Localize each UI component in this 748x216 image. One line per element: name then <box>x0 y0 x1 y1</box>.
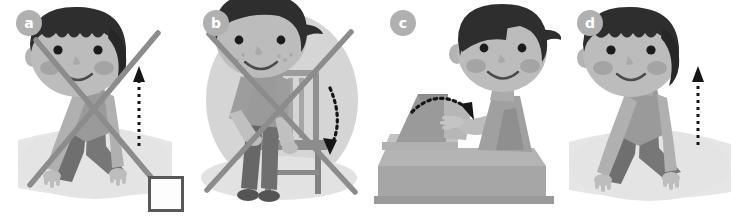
box-lid-shape <box>396 94 448 142</box>
cheek-right-shape <box>94 61 114 75</box>
cheek-left-shape <box>466 59 486 73</box>
motion-arrow-up-icon <box>692 66 704 145</box>
eye-left-shape <box>235 36 244 45</box>
answer-box-a[interactable] <box>148 176 184 212</box>
desk-base-shape <box>374 196 554 204</box>
hand-right-shape <box>282 142 298 154</box>
cheek-left-shape <box>593 61 613 75</box>
hair-tuft-shape <box>540 30 561 44</box>
shoe-left-shape <box>237 189 259 201</box>
eye-right-shape <box>93 45 102 54</box>
eye-right-shape <box>646 45 655 54</box>
worksheet-strip: a <box>0 0 748 216</box>
panel-c[interactable]: c <box>374 0 561 216</box>
eye-left-shape <box>480 44 489 53</box>
leg-right-shape <box>261 122 279 190</box>
box-front-shape <box>382 142 458 150</box>
eye-left-shape <box>53 45 62 54</box>
ground-shadow-ellipse <box>201 156 357 200</box>
panel-label-badge-b: b <box>203 10 229 36</box>
panel-a[interactable]: a <box>0 0 187 216</box>
eye-left-shape <box>606 45 615 54</box>
shoe-right-shape <box>258 190 280 202</box>
cheek-right-shape <box>647 61 667 75</box>
panel-d[interactable]: d 1 <box>561 0 748 216</box>
eye-right-shape <box>277 36 286 45</box>
panel-label-badge-a: a <box>16 10 42 36</box>
panel-label-badge-d: d <box>577 10 603 36</box>
eye-right-shape <box>518 44 527 53</box>
cheek-right-shape <box>520 59 540 73</box>
desk-body-shape <box>378 166 546 198</box>
panel-b[interactable]: b <box>187 0 374 216</box>
panel-label-badge-c: c <box>390 10 416 36</box>
